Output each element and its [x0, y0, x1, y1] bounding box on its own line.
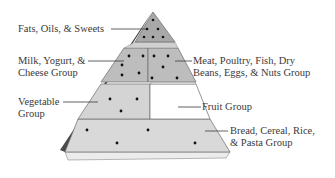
label-meat-line-1: Meat, Poultry, Fish, Dry [193, 55, 310, 67]
tier-vegetable [78, 84, 150, 119]
label-fats-line-1: Fats, Oils, & Sweets [18, 23, 104, 35]
label-bread-line-2: & Pasta Group [230, 137, 315, 149]
label-fruit-line-1: Fruit Group [202, 101, 252, 113]
tier-fruit [150, 84, 210, 119]
label-fruit: Fruit Group [202, 101, 252, 113]
tier-fats [135, 12, 175, 42]
tier-bread [65, 119, 230, 152]
tier-milk [101, 48, 148, 82]
tier-meat [148, 48, 196, 82]
label-vegetable-line-1: Vegetable [18, 96, 59, 108]
label-vegetable: Vegetable Group [18, 96, 59, 120]
label-milk-line-1: Milk, Yogurt, & [18, 55, 85, 67]
label-vegetable-line-2: Group [18, 108, 59, 120]
label-meat-line-2: Beans, Eggs, & Nuts Group [193, 67, 310, 79]
label-meat: Meat, Poultry, Fish, Dry Beans, Eggs, & … [193, 55, 310, 79]
label-milk-line-2: Cheese Group [18, 67, 85, 79]
label-bread: Bread, Cereal, Rice, & Pasta Group [230, 125, 315, 149]
label-milk: Milk, Yogurt, & Cheese Group [18, 55, 85, 79]
label-bread-line-1: Bread, Cereal, Rice, [230, 125, 315, 137]
pyramid-base-edge [65, 152, 230, 160]
label-fats: Fats, Oils, & Sweets [18, 23, 104, 35]
